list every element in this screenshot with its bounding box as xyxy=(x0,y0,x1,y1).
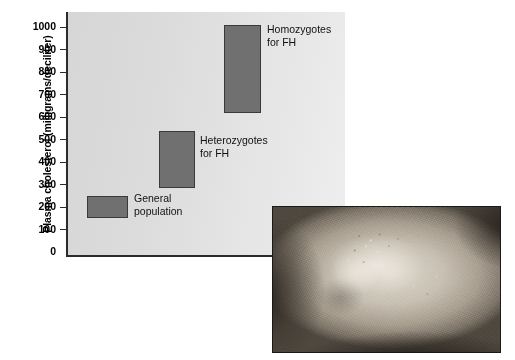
y-tick-mark-500 xyxy=(60,139,66,140)
y-tick-mark-100 xyxy=(60,229,66,230)
y-tick-mark-600 xyxy=(60,117,66,118)
bar-label-homozygotes-fh: Homozygotes for FH xyxy=(267,23,331,48)
y-tick-mark-1000 xyxy=(60,27,66,28)
y-tick-label-900: 900 xyxy=(6,43,56,56)
y-tick-label-500: 500 xyxy=(6,133,56,146)
bar-homozygotes-fh[interactable] xyxy=(224,25,261,113)
y-tick-label-1000: 1000 xyxy=(6,20,56,33)
figure-container: Plasma cholesterol (milligrams/deciliter… xyxy=(0,0,515,360)
y-tick-label-200: 200 xyxy=(6,200,56,213)
bar-label-heterozygotes-fh: Heterozygotes for FH xyxy=(200,134,268,159)
y-tick-label-700: 700 xyxy=(6,88,56,101)
bar-general-population[interactable] xyxy=(87,196,128,219)
y-tick-mark-800 xyxy=(60,72,66,73)
y-tick-label-800: 800 xyxy=(6,65,56,78)
y-tick-label-300: 300 xyxy=(6,178,56,191)
y-tick-mark-400 xyxy=(60,162,66,163)
y-tick-label-100: 100 xyxy=(6,223,56,236)
y-tick-mark-200 xyxy=(60,207,66,208)
bar-heterozygotes-fh[interactable] xyxy=(159,131,195,188)
bar-label-general-population: General population xyxy=(134,192,182,217)
y-tick-label-400: 400 xyxy=(6,155,56,168)
y-axis-line xyxy=(66,12,68,257)
xanthoma-photograph xyxy=(272,206,501,353)
y-tick-mark-900 xyxy=(60,49,66,50)
y-tick-label-600: 600 xyxy=(6,110,56,123)
y-tick-label-0: 0 xyxy=(6,245,56,258)
y-tick-mark-300 xyxy=(60,184,66,185)
photo-grain-layer xyxy=(273,207,500,352)
y-tick-mark-700 xyxy=(60,94,66,95)
